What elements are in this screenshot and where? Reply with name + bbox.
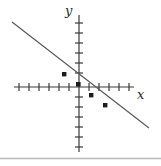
data-point (103, 103, 107, 107)
plotted-line (12, 22, 149, 128)
data-point (76, 82, 81, 87)
y-axis-label: y (65, 4, 72, 17)
coordinate-plane-svg (0, 0, 161, 166)
x-axis-label: x (137, 88, 144, 101)
data-point (89, 93, 93, 97)
graph-figure: y x (0, 0, 161, 166)
data-point (62, 72, 66, 76)
